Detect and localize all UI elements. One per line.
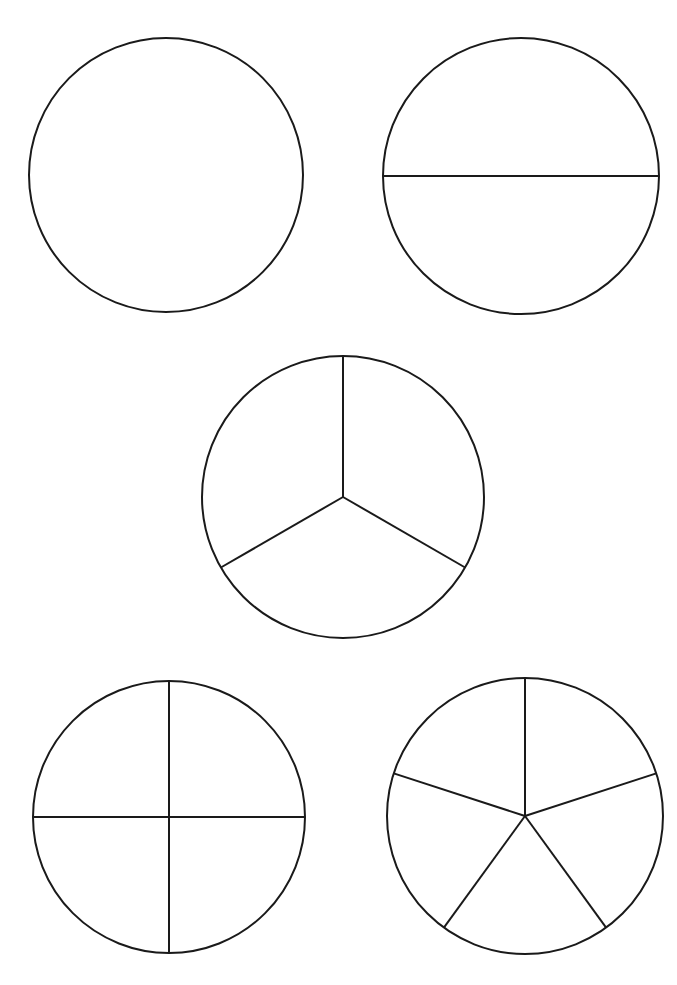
fraction-circles-worksheet xyxy=(0,0,677,985)
fraction-circle-quarters[interactable] xyxy=(33,681,305,953)
fraction-circles-canvas xyxy=(0,0,677,985)
divider-fifths-3 xyxy=(444,816,525,928)
divider-fifths-5 xyxy=(525,773,656,816)
divider-thirds-3 xyxy=(343,497,465,568)
circle-outline-whole xyxy=(29,38,303,312)
fraction-circle-thirds[interactable] xyxy=(202,356,484,638)
divider-fifths-4 xyxy=(525,816,606,928)
fraction-circle-whole[interactable] xyxy=(29,38,303,312)
fraction-circle-halves[interactable] xyxy=(383,38,659,314)
divider-fifths-2 xyxy=(394,773,525,816)
divider-thirds-2 xyxy=(221,497,343,568)
fraction-circle-fifths[interactable] xyxy=(387,678,663,954)
